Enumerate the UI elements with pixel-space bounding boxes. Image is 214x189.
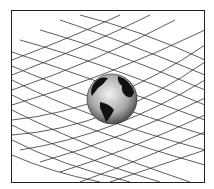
spacetime-illustration xyxy=(0,0,214,189)
globe-icon xyxy=(87,74,137,124)
